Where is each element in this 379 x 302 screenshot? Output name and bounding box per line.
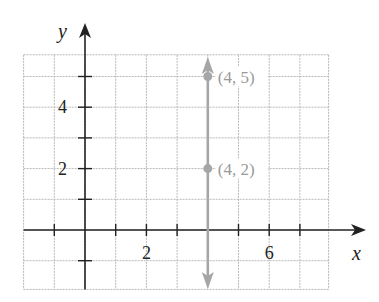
axes [24,23,366,289]
labeled-points: (4, 5)(4, 2) [203,67,267,179]
y-tick-label: 2 [58,159,67,179]
y-tick-label: 4 [58,97,67,117]
x-axis-label: x [351,242,361,264]
grid-lines [24,55,329,290]
y-axis-label: y [56,20,67,43]
x-tick-label: 6 [265,243,274,263]
point-label: (4, 5) [218,68,255,87]
coordinate-plane: 2624 (4, 5)(4, 2) x y [0,0,379,302]
data-point [203,72,212,81]
point-label: (4, 2) [218,160,255,179]
data-point [203,164,212,173]
x-tick-label: 2 [142,243,151,263]
